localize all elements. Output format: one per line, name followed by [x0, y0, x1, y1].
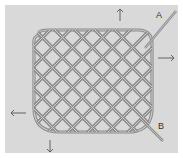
arrow-up-icon	[117, 9, 123, 21]
arrow-down-icon	[47, 140, 53, 152]
knot-illustration	[0, 0, 183, 158]
arrow-right-icon	[158, 55, 174, 61]
arrow-left-icon	[11, 110, 26, 116]
label-b: B	[158, 121, 164, 131]
label-a: A	[156, 10, 162, 20]
